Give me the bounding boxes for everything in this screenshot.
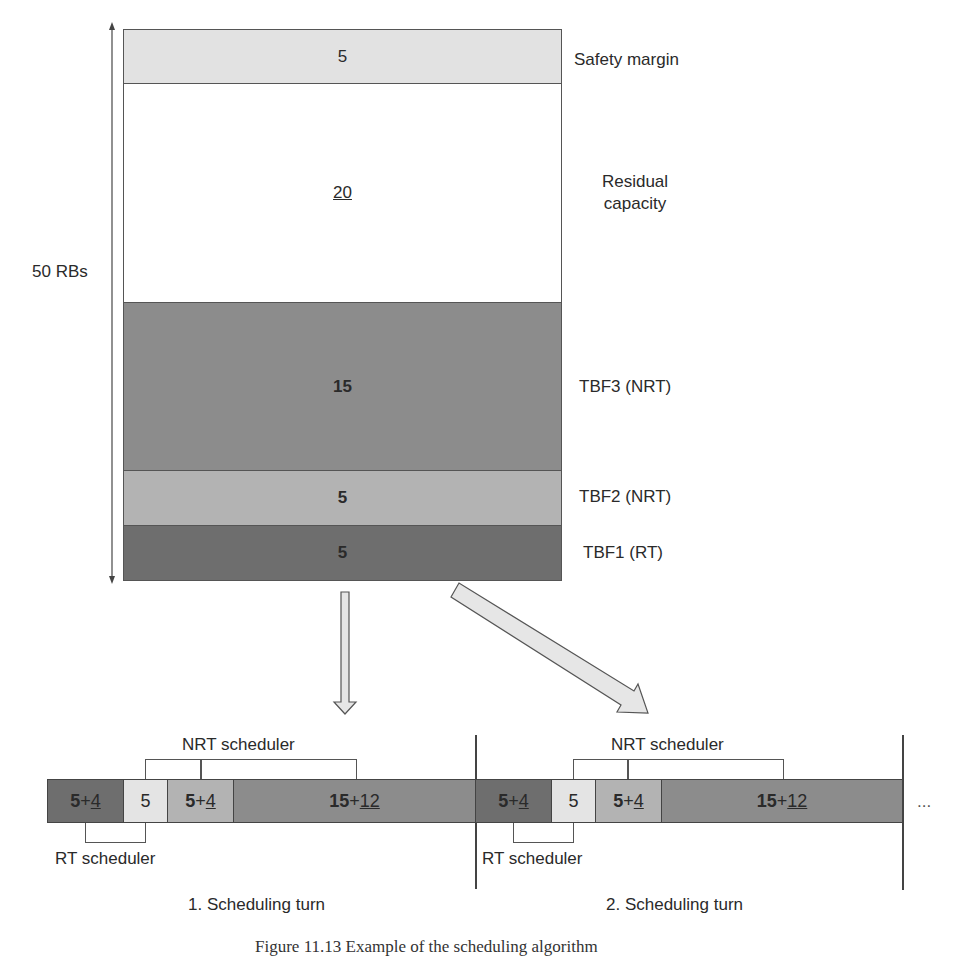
tbf3-label: TBF3 (NRT) <box>579 376 671 398</box>
tbf2-segment: 5+4 <box>595 779 662 823</box>
down-arrow-icon <box>334 592 356 714</box>
residual-capacity-label: Residual capacity <box>588 171 682 215</box>
tbf3-block: 15 <box>123 302 562 471</box>
rt-segment: 5+4 <box>47 779 124 823</box>
residual-capacity-value: 20 <box>333 183 352 203</box>
nrt-scheduler-label: NRT scheduler <box>611 735 724 755</box>
nrt-scheduler-bracket <box>145 759 357 779</box>
tbf2-block: 5 <box>123 470 562 526</box>
nrt-scheduler-label: NRT scheduler <box>182 735 295 755</box>
safety-segment: 5 <box>551 779 596 823</box>
turn-2-caption: 2. Scheduling turn <box>606 895 743 915</box>
safety-segment: 5 <box>123 779 168 823</box>
tbf2-label: TBF2 (NRT) <box>579 486 671 508</box>
rt-scheduler-label: RT scheduler <box>482 849 582 869</box>
total-capacity-arrow-icon <box>104 22 120 584</box>
safety-margin-block: 5 <box>123 29 562 84</box>
rt-scheduler-bracket <box>513 823 574 843</box>
tbf1-value: 5 <box>338 543 347 563</box>
tbf2-value: 5 <box>338 488 347 508</box>
rt-scheduler-bracket <box>85 823 146 843</box>
diagonal-arrow-icon <box>451 583 648 713</box>
nrt-scheduler-bracket <box>573 759 784 779</box>
safety-margin-value: 5 <box>338 47 347 67</box>
tbf3-segment: 15+12 <box>661 779 903 823</box>
residual-capacity-block: 20 <box>123 83 562 303</box>
rt-scheduler-label: RT scheduler <box>55 849 155 869</box>
nrt-bracket-divider <box>627 759 629 779</box>
figure-caption: Figure 11.13 Example of the scheduling a… <box>255 937 598 957</box>
total-capacity-label: 50 RBs <box>32 262 88 282</box>
tbf3-segment: 15+12 <box>233 779 476 823</box>
tbf1-block: 5 <box>123 525 562 581</box>
tbf1-label: TBF1 (RT) <box>583 542 663 564</box>
continuation-ellipsis: ... <box>917 792 931 812</box>
tbf3-value: 15 <box>333 377 352 397</box>
tbf2-segment: 5+4 <box>167 779 234 823</box>
safety-margin-label: Safety margin <box>574 49 679 71</box>
rt-segment: 5+4 <box>475 779 552 823</box>
turn-1-caption: 1. Scheduling turn <box>188 895 325 915</box>
nrt-bracket-divider <box>200 759 202 779</box>
